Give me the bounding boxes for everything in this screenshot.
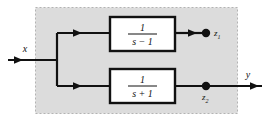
node-label-z2-subscript: 2 <box>206 98 209 104</box>
node-label-z1-subscript: 1 <box>218 34 221 40</box>
block-lower-numerator: 1 <box>140 74 145 85</box>
output-arrowhead <box>250 82 259 90</box>
block-upper-denominator: s − 1 <box>132 36 153 47</box>
input-arrowhead <box>14 56 23 64</box>
input-label-x: x <box>22 43 28 54</box>
output-label-y: y <box>245 69 251 80</box>
block-diagram: 1 s − 1 1 s + 1 x y z1 z2 <box>0 0 269 130</box>
figure-canvas: 1 s − 1 1 s + 1 x y z1 z2 <box>0 0 269 130</box>
block-lower-denominator: s + 1 <box>132 88 153 99</box>
node-z2 <box>202 82 210 90</box>
block-upper-numerator: 1 <box>140 22 145 33</box>
node-z1 <box>202 29 210 37</box>
